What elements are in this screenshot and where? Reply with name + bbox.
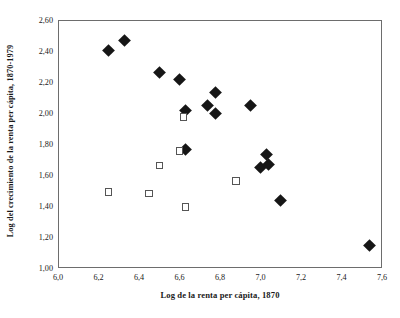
y-tick-label: 1,20: [3, 233, 53, 242]
data-point-square: [176, 147, 184, 155]
data-point-square: [156, 162, 164, 170]
data-point-diamond: [274, 194, 287, 207]
y-tick-label: 1,80: [3, 140, 53, 149]
data-point-diamond: [363, 239, 376, 252]
x-tick-label: 7,4: [322, 273, 362, 282]
data-point-square: [232, 177, 240, 185]
plot-area: [58, 20, 382, 268]
y-tick-label: 2,60: [3, 16, 53, 25]
x-tick-label: 6,2: [79, 273, 119, 282]
y-tick-label: 1,00: [3, 264, 53, 273]
x-tick-label: 6,0: [38, 273, 78, 282]
data-point-diamond: [102, 44, 115, 57]
y-tick-label: 2,40: [3, 47, 53, 56]
data-point-square: [182, 203, 190, 211]
data-point-square: [180, 113, 188, 121]
y-tick-label: 1,60: [3, 171, 53, 180]
y-axis-tick-labels: 1,001,201,401,601,802,002,202,402,60: [0, 20, 53, 268]
x-tick-label: 7,0: [241, 273, 281, 282]
data-point-diamond: [210, 86, 223, 99]
scatter-chart-figure: Log del crecimiento de la renta per cápi…: [0, 0, 400, 318]
data-point-diamond: [244, 99, 257, 112]
x-axis-tick-labels: 6,06,26,46,66,87,07,27,47,6: [58, 273, 382, 285]
x-tick-label: 7,2: [281, 273, 321, 282]
data-point-square: [145, 190, 153, 198]
x-axis-title: Log de la renta per cápita, 1870: [58, 290, 382, 300]
y-tick-label: 1,40: [3, 202, 53, 211]
y-tick-label: 2,20: [3, 78, 53, 87]
x-tick-label: 6,4: [119, 273, 159, 282]
x-tick-label: 7,6: [362, 273, 400, 282]
data-point-diamond: [173, 73, 186, 86]
y-tick-label: 2,00: [3, 109, 53, 118]
data-point-diamond: [153, 66, 166, 79]
x-tick-label: 6,8: [200, 273, 240, 282]
data-point-diamond: [210, 107, 223, 120]
x-tick-label: 6,6: [160, 273, 200, 282]
data-point-diamond: [118, 35, 131, 48]
data-point-square: [105, 188, 113, 196]
